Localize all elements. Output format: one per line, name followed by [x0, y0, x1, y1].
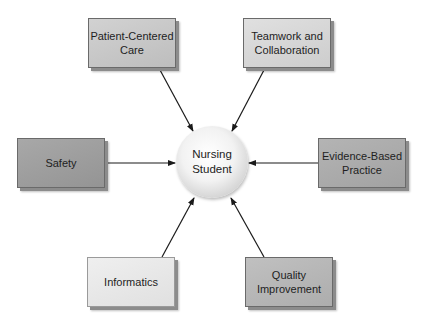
node-label: Evidence-Based: [322, 149, 402, 163]
node-safety: Safety: [17, 138, 105, 188]
arrow-patient-centered-care: [160, 70, 193, 131]
qsen-competencies-diagram: Patient-Centered Care Teamwork and Colla…: [0, 0, 424, 324]
node-patient-centered-care: Patient-Centered Care: [88, 18, 176, 68]
center-label: Student: [192, 162, 232, 177]
node-teamwork-and-collaboration: Teamwork and Collaboration: [243, 18, 331, 68]
node-label: Practice: [322, 163, 402, 177]
arrow-informatics: [162, 198, 194, 257]
node-label: Collaboration: [251, 43, 323, 57]
node-informatics: Informatics: [87, 257, 175, 307]
node-label: Teamwork and: [251, 29, 323, 43]
node-label: Quality: [257, 268, 321, 282]
node-quality-improvement: Quality Improvement: [245, 257, 333, 307]
node-nursing-student: Nursing Student: [176, 126, 248, 198]
node-label: Improvement: [257, 282, 321, 296]
node-label: Informatics: [104, 275, 158, 289]
node-label: Safety: [45, 156, 76, 170]
node-evidence-based-practice: Evidence-Based Practice: [318, 138, 406, 188]
node-label: Care: [90, 43, 173, 57]
arrow-teamwork: [232, 70, 264, 131]
node-label: Patient-Centered: [90, 29, 173, 43]
center-label: Nursing: [192, 147, 232, 162]
arrow-quality: [231, 198, 264, 257]
